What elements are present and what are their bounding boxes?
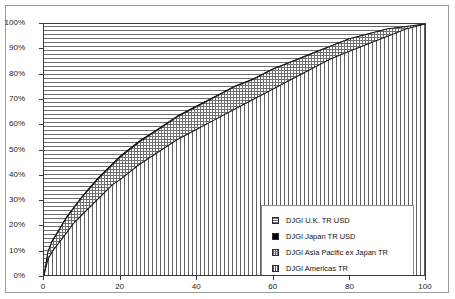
y-tick-label-80: 80% xyxy=(9,70,25,78)
y-tick-label-90: 90% xyxy=(9,44,25,52)
legend-swatch-uk xyxy=(272,217,279,224)
legend-item-japan[interactable]: DJGI Japan TR USD xyxy=(262,228,413,244)
x-tick-label-0: 0 xyxy=(23,283,63,291)
y-tick-label-50: 50% xyxy=(9,146,25,154)
plot-area: DJGI U.K. TR USD DJGI Japan TR USD DJGI … xyxy=(43,23,426,276)
y-tick-label-20: 20% xyxy=(9,221,25,229)
legend-item-americas[interactable]: DJGI Americas TR xyxy=(262,260,413,276)
y-tick-label-30: 30% xyxy=(9,196,25,204)
legend-label-asia-pacific: DJGI Asia Pacific ex Japan TR xyxy=(286,248,388,257)
legend-item-asia-pacific[interactable]: DJGI Asia Pacific ex Japan TR xyxy=(262,244,413,260)
chart-legend[interactable]: DJGI U.K. TR USD DJGI Japan TR USD DJGI … xyxy=(261,205,414,276)
x-tick-label-20: 20 xyxy=(100,283,140,291)
legend-label-americas: DJGI Americas TR xyxy=(286,264,348,273)
chart-frame: 0% 10% 20% 30% 40% 50% 60% 70% 80% 90% 1… xyxy=(5,5,449,293)
y-tick-label-10: 10% xyxy=(9,247,25,255)
legend-swatch-americas xyxy=(272,265,279,272)
legend-label-uk: DJGI U.K. TR USD xyxy=(286,216,350,225)
legend-label-japan: DJGI Japan TR USD xyxy=(286,232,355,241)
x-tick-label-40: 40 xyxy=(176,283,216,291)
x-tick-label-60: 60 xyxy=(253,283,293,291)
x-tick-label-80: 80 xyxy=(329,283,369,291)
legend-item-uk[interactable]: DJGI U.K. TR USD xyxy=(262,212,413,228)
y-tick-label-100: 100% xyxy=(5,19,25,27)
x-tick-label-100: 100 xyxy=(405,283,445,291)
y-tick-label-70: 70% xyxy=(9,95,25,103)
legend-swatch-asia-pacific xyxy=(272,249,279,256)
y-tick-label-40: 40% xyxy=(9,171,25,179)
y-tick-label-0: 0% xyxy=(13,272,25,280)
legend-swatch-japan xyxy=(272,233,279,240)
y-tick-label-60: 60% xyxy=(9,120,25,128)
